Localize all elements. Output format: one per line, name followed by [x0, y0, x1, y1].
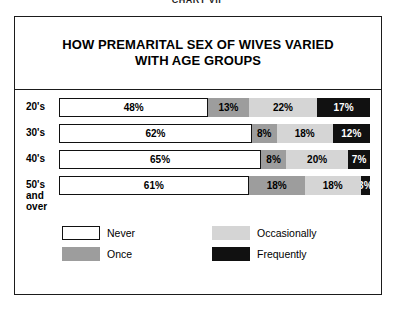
- legend-swatch-never-icon: [62, 226, 100, 240]
- category-label-30s: 30's: [26, 124, 59, 138]
- legend-swatch-occasionally-icon: [212, 226, 250, 240]
- legend-swatch-once-icon: [62, 247, 100, 261]
- bar-segment-frequently: 7%: [348, 150, 370, 169]
- stacked-bar-30s: 62% 8% 18% 12%: [59, 124, 370, 143]
- stacked-bar-50s-and-over: 61% 18% 18% 3%: [59, 176, 370, 195]
- chart-title-band: HOW PREMARITAL SEX OF WIVES VARIED WITH …: [15, 17, 381, 90]
- bar-segment-occasionally: 20%: [286, 150, 348, 169]
- category-label-line: 20's: [26, 101, 59, 112]
- category-label-40s: 40's: [26, 150, 59, 164]
- bar-segment-never: 65%: [59, 150, 261, 169]
- chart-legend: Never Occasionally Once Frequently: [26, 226, 370, 261]
- legend-item-never: Never: [62, 226, 212, 240]
- legend-swatch-frequently-icon: [212, 247, 250, 261]
- table-row: 30's 62% 8% 18% 12%: [26, 124, 370, 143]
- bar-segment-once: 8%: [252, 124, 277, 143]
- chart-title-line-2: WITH AGE GROUPS: [135, 53, 261, 68]
- category-label-line: 40's: [26, 153, 59, 164]
- bar-segment-occasionally: 18%: [277, 124, 333, 143]
- legend-label: Never: [107, 227, 135, 239]
- legend-label: Frequently: [257, 248, 307, 260]
- bar-segment-never: 48%: [59, 98, 208, 117]
- category-label-20s: 20's: [26, 98, 59, 112]
- stacked-bar-20s: 48% 13% 22% 17%: [59, 98, 370, 117]
- table-row: 50's and over 61% 18% 18% 3%: [26, 176, 370, 212]
- bar-segment-never: 62%: [59, 124, 252, 143]
- stacked-bar-40s: 65% 8% 20% 7%: [59, 150, 370, 169]
- page-title: HOW PREMARITAL SEX OF WIVES VARIED WITH …: [46, 37, 349, 69]
- table-row: 40's 65% 8% 20% 7%: [26, 150, 370, 169]
- bar-segment-frequently: 12%: [333, 124, 370, 143]
- legend-label: Occasionally: [257, 227, 317, 239]
- table-row: 20's 48% 13% 22% 17%: [26, 98, 370, 117]
- bar-segment-occasionally: 22%: [249, 98, 317, 117]
- bar-rows: 20's 48% 13% 22% 17% 30's 62% 8% 18%: [26, 98, 370, 212]
- chart-title-line-1: HOW PREMARITAL SEX OF WIVES VARIED: [62, 37, 333, 52]
- category-label-line: over: [26, 201, 59, 212]
- bar-segment-frequently: 17%: [317, 98, 370, 117]
- legend-label: Once: [107, 248, 132, 260]
- bar-segment-frequently: 3%: [361, 176, 370, 195]
- bar-segment-once: 18%: [249, 176, 305, 195]
- category-label-line: and: [26, 190, 59, 201]
- bar-segment-occasionally: 18%: [305, 176, 361, 195]
- legend-item-once: Once: [62, 247, 212, 261]
- legend-item-frequently: Frequently: [212, 247, 364, 261]
- category-label-line: 50's: [26, 179, 59, 190]
- legend-item-occasionally: Occasionally: [212, 226, 364, 240]
- chart-frame: HOW PREMARITAL SEX OF WIVES VARIED WITH …: [14, 16, 382, 295]
- plate-caption: CHART VII: [0, 0, 393, 3]
- bar-segment-once: 8%: [261, 150, 286, 169]
- plot-area: 20's 48% 13% 22% 17% 30's 62% 8% 18%: [15, 90, 381, 294]
- bar-segment-never: 61%: [59, 176, 249, 195]
- category-label-line: 30's: [26, 127, 59, 138]
- bar-segment-once: 13%: [208, 98, 248, 117]
- category-label-50s-and-over: 50's and over: [26, 176, 59, 212]
